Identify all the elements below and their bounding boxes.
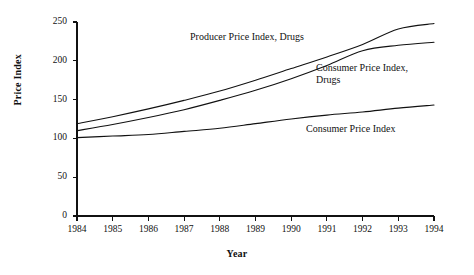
x-tick-label: 1991 xyxy=(307,224,347,234)
x-tick-label: 1989 xyxy=(236,224,276,234)
x-tick-label: 1985 xyxy=(93,224,133,234)
y-tick-label: 250 xyxy=(33,16,67,26)
y-tick-label: 150 xyxy=(33,94,67,104)
x-tick-label: 1984 xyxy=(57,224,97,234)
x-tick-label: 1993 xyxy=(378,224,418,234)
x-tick-label: 1986 xyxy=(128,224,168,234)
y-tick-label: 200 xyxy=(33,55,67,65)
x-tick-label: 1992 xyxy=(343,224,383,234)
y-axis-title: Price Index xyxy=(12,82,23,106)
y-tick-label: 0 xyxy=(33,210,67,220)
series-annotation-label: Consumer Price Index xyxy=(306,123,395,135)
x-tick-label: 1994 xyxy=(414,224,454,234)
price-index-line-chart: Price Index Year 050100150200250 1984198… xyxy=(0,0,474,275)
x-axis-title: Year xyxy=(0,248,474,259)
series-line-2 xyxy=(77,42,434,130)
x-tick-label: 1988 xyxy=(200,224,240,234)
x-tick-label: 1987 xyxy=(164,224,204,234)
series-annotation-label: Consumer Price Index, Drugs xyxy=(316,62,408,86)
series-annotation-label: Producer Price Index, Drugs xyxy=(190,31,304,43)
y-tick-label: 50 xyxy=(33,171,67,181)
x-tick-label: 1990 xyxy=(271,224,311,234)
chart-axes xyxy=(77,22,434,216)
y-tick-label: 100 xyxy=(33,132,67,142)
